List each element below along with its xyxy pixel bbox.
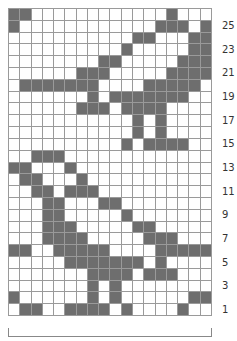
chart-cell — [110, 56, 121, 68]
chart-cell — [99, 44, 110, 56]
chart-cell — [110, 269, 121, 281]
chart-cell — [189, 33, 200, 45]
chart-cell — [178, 92, 189, 104]
chart-cell — [54, 186, 65, 198]
chart-cell — [88, 304, 99, 316]
chart-cell — [133, 139, 144, 151]
chart-cell — [156, 257, 167, 269]
chart-cell — [88, 21, 99, 33]
chart-cell — [43, 233, 54, 245]
chart-cell — [167, 9, 178, 21]
chart-cell — [32, 245, 43, 257]
chart-cell — [99, 139, 110, 151]
chart-cell — [32, 163, 43, 175]
chart-cell — [122, 21, 133, 33]
chart-cell — [133, 115, 144, 127]
chart-cell — [144, 245, 155, 257]
chart-cell — [65, 151, 76, 163]
chart-cell — [54, 44, 65, 56]
chart-cell — [9, 198, 20, 210]
chart-cell — [32, 21, 43, 33]
chart-cell — [88, 151, 99, 163]
chart-cell — [133, 80, 144, 92]
chart-cell — [144, 222, 155, 234]
chart-cell — [144, 33, 155, 45]
chart-cell — [122, 257, 133, 269]
chart-cell — [99, 127, 110, 139]
chart-cell — [110, 44, 121, 56]
chart-cell — [77, 186, 88, 198]
chart-cell — [133, 186, 144, 198]
chart-cell — [88, 92, 99, 104]
chart-cell — [43, 9, 54, 21]
chart-cell — [99, 245, 110, 257]
chart-cell — [167, 281, 178, 293]
row-label-19: 19 — [222, 91, 235, 103]
row-label-21: 21 — [222, 67, 235, 79]
chart-cell — [110, 281, 121, 293]
chart-cell — [201, 281, 212, 293]
chart-cell — [77, 56, 88, 68]
chart-cell — [110, 33, 121, 45]
chart-cell — [54, 257, 65, 269]
chart-cell — [32, 151, 43, 163]
chart-cell — [99, 151, 110, 163]
chart-cell — [77, 9, 88, 21]
chart-cell — [122, 56, 133, 68]
chart-cell — [178, 233, 189, 245]
chart-cell — [65, 222, 76, 234]
chart-cell — [133, 292, 144, 304]
chart-cell — [178, 21, 189, 33]
chart-cell — [178, 163, 189, 175]
chart-cell — [201, 186, 212, 198]
chart-cell — [178, 33, 189, 45]
chart-cell — [167, 139, 178, 151]
chart-cell — [110, 151, 121, 163]
chart-cell — [54, 115, 65, 127]
chart-cell — [32, 80, 43, 92]
chart-cell — [88, 257, 99, 269]
chart-cell — [9, 174, 20, 186]
chart-cell — [65, 245, 76, 257]
chart-cell — [144, 68, 155, 80]
chart-cell — [99, 269, 110, 281]
chart-cell — [178, 80, 189, 92]
chart-cell — [88, 269, 99, 281]
chart-cell — [65, 56, 76, 68]
chart-cell — [54, 139, 65, 151]
chart-cell — [201, 233, 212, 245]
chart-cell — [144, 127, 155, 139]
chart-cell — [9, 245, 20, 257]
chart-cell — [156, 68, 167, 80]
chart-cell — [178, 281, 189, 293]
chart-cell — [189, 139, 200, 151]
chart-cell — [20, 68, 31, 80]
chart-cell — [110, 222, 121, 234]
chart-cell — [88, 9, 99, 21]
chart-cell — [156, 44, 167, 56]
chart-cell — [167, 151, 178, 163]
chart-cell — [156, 139, 167, 151]
chart-cell — [133, 269, 144, 281]
chart-cell — [77, 233, 88, 245]
chart-cell — [43, 139, 54, 151]
chart-cell — [201, 174, 212, 186]
chart-cell — [65, 233, 76, 245]
chart-cell — [133, 281, 144, 293]
chart-cell — [133, 33, 144, 45]
chart-cell — [189, 281, 200, 293]
chart-cell — [77, 281, 88, 293]
chart-cell — [133, 21, 144, 33]
chart-cell — [65, 115, 76, 127]
chart-cell — [144, 151, 155, 163]
chart-cell — [9, 139, 20, 151]
chart-cell — [201, 198, 212, 210]
chart-cell — [43, 210, 54, 222]
chart-cell — [20, 103, 31, 115]
chart-cell — [88, 127, 99, 139]
chart-cell — [133, 44, 144, 56]
chart-cell — [201, 139, 212, 151]
row-label-13: 13 — [222, 162, 235, 174]
chart-cell — [65, 44, 76, 56]
chart-cell — [65, 139, 76, 151]
